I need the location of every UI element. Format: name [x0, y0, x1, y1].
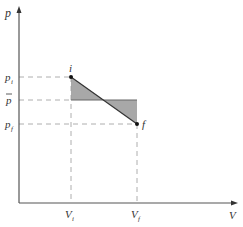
- svg-text:f: f: [11, 125, 14, 133]
- svg-text:p: p: [4, 118, 11, 130]
- svg-text:p: p: [4, 71, 11, 83]
- svg-text:p: p: [5, 94, 12, 106]
- pv-diagram: p V i f p i p p f V i V f: [0, 0, 243, 227]
- p-f-label: p f: [4, 118, 14, 133]
- point-i: [69, 75, 73, 79]
- p-i-label: p i: [4, 71, 13, 86]
- svg-text:i: i: [11, 78, 13, 86]
- point-i-label: i: [69, 62, 72, 74]
- x-axis-arrow-icon: [231, 201, 238, 206]
- y-axis-label: p: [4, 6, 11, 20]
- p-bar-label: p: [5, 94, 12, 106]
- point-f: [135, 122, 139, 126]
- point-f-label: f: [142, 118, 147, 130]
- v-i-label: V i: [65, 208, 74, 223]
- v-f-label: V f: [131, 208, 141, 223]
- x-axis-label: V: [229, 209, 237, 221]
- svg-text:i: i: [72, 215, 74, 223]
- y-axis-arrow-icon: [17, 6, 22, 13]
- svg-text:f: f: [138, 215, 141, 223]
